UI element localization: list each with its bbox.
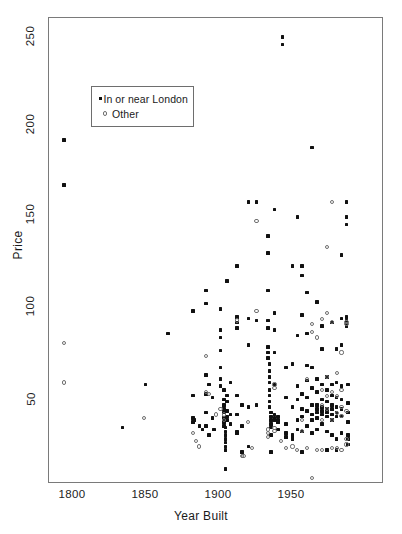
data-point-london [330, 383, 334, 387]
data-point-london [310, 418, 314, 422]
data-point-london [330, 433, 334, 437]
data-point-london [121, 426, 125, 430]
y-tick-50: 50 [25, 392, 37, 406]
data-point-other [222, 412, 226, 416]
data-point-london [310, 403, 314, 407]
data-point-london [225, 279, 229, 283]
data-point-london [191, 394, 195, 398]
data-point-london [281, 35, 285, 39]
data-point-london [268, 369, 272, 373]
data-point-london [247, 343, 251, 347]
data-point-london [296, 418, 300, 422]
data-point-london [305, 332, 309, 336]
data-point-london [219, 366, 223, 370]
data-point-other [62, 341, 66, 345]
data-point-london [284, 396, 288, 400]
data-point-other [305, 446, 309, 450]
data-point-other [191, 431, 195, 435]
data-point-london [225, 409, 229, 413]
data-point-london [204, 289, 208, 293]
data-point-other [295, 448, 299, 452]
data-point-london [284, 366, 288, 370]
data-point-london [340, 343, 344, 347]
data-point-other [344, 322, 348, 326]
data-point-london [325, 415, 329, 419]
data-point-london [325, 411, 329, 415]
data-point-london [211, 416, 215, 420]
data-point-london [247, 200, 251, 204]
data-point-london [268, 375, 272, 379]
data-point-london [235, 326, 239, 330]
data-point-london [296, 215, 300, 219]
data-point-london [219, 336, 223, 340]
data-point-london [315, 428, 319, 432]
data-point-london [335, 381, 339, 385]
data-point-london [335, 347, 339, 351]
y-tick-150: 150 [24, 204, 36, 224]
data-point-london [211, 396, 215, 400]
data-point-london [320, 324, 324, 328]
data-point-london [315, 390, 319, 394]
data-point-other [241, 454, 245, 458]
data-point-london [268, 400, 272, 404]
data-point-other [279, 439, 283, 443]
data-point-london [291, 362, 295, 366]
x-tick-1800: 1800 [58, 488, 85, 500]
data-point-london [247, 317, 251, 321]
data-point-london [320, 398, 324, 402]
data-point-london [310, 431, 314, 435]
x-axis-label: Year Built [0, 509, 402, 523]
data-point-other [235, 318, 239, 322]
data-point-london [305, 291, 309, 295]
data-point-london [284, 422, 288, 426]
data-point-other [310, 322, 314, 326]
data-point-london [315, 411, 319, 415]
data-point-london [268, 405, 272, 409]
data-point-london [335, 415, 339, 419]
data-point-london [219, 349, 223, 353]
data-point-london [300, 450, 304, 454]
data-point-london [235, 394, 239, 398]
data-point-london [284, 435, 288, 439]
data-point-london [310, 386, 314, 390]
legend-entry-other: Other [98, 106, 188, 121]
data-point-london [266, 326, 270, 330]
data-point-london [335, 437, 339, 441]
data-point-london [266, 251, 270, 255]
data-point-other [266, 435, 270, 439]
data-point-london [330, 413, 334, 417]
data-point-other [284, 446, 288, 450]
data-point-london [204, 373, 208, 377]
data-point-london [212, 428, 216, 432]
plot-area: In or near London Other [48, 17, 383, 483]
data-point-london [340, 253, 344, 257]
data-point-london [276, 420, 280, 424]
data-point-other [339, 405, 343, 409]
data-point-london [268, 388, 272, 392]
data-point-london [291, 264, 295, 268]
legend-label-other: Other [112, 108, 139, 120]
data-point-london [229, 422, 233, 426]
data-point-london [320, 347, 324, 351]
data-point-london [325, 430, 329, 434]
data-point-london [335, 405, 339, 409]
data-point-london [320, 422, 324, 426]
data-point-london [300, 392, 304, 396]
data-point-london [224, 426, 228, 430]
data-point-other [344, 442, 348, 446]
data-point-london [325, 400, 329, 404]
data-point-other [315, 448, 319, 452]
data-point-london [266, 345, 270, 349]
data-point-other [310, 476, 314, 480]
data-point-london [273, 208, 277, 212]
data-point-london [340, 431, 344, 435]
data-point-london [204, 424, 208, 428]
data-point-london [219, 377, 223, 381]
data-point-london [235, 431, 239, 435]
data-point-london [255, 319, 259, 323]
data-point-london [225, 400, 229, 404]
data-point-london [315, 416, 319, 420]
data-point-london [222, 388, 226, 392]
data-point-london [296, 334, 300, 338]
data-point-other [204, 354, 208, 358]
